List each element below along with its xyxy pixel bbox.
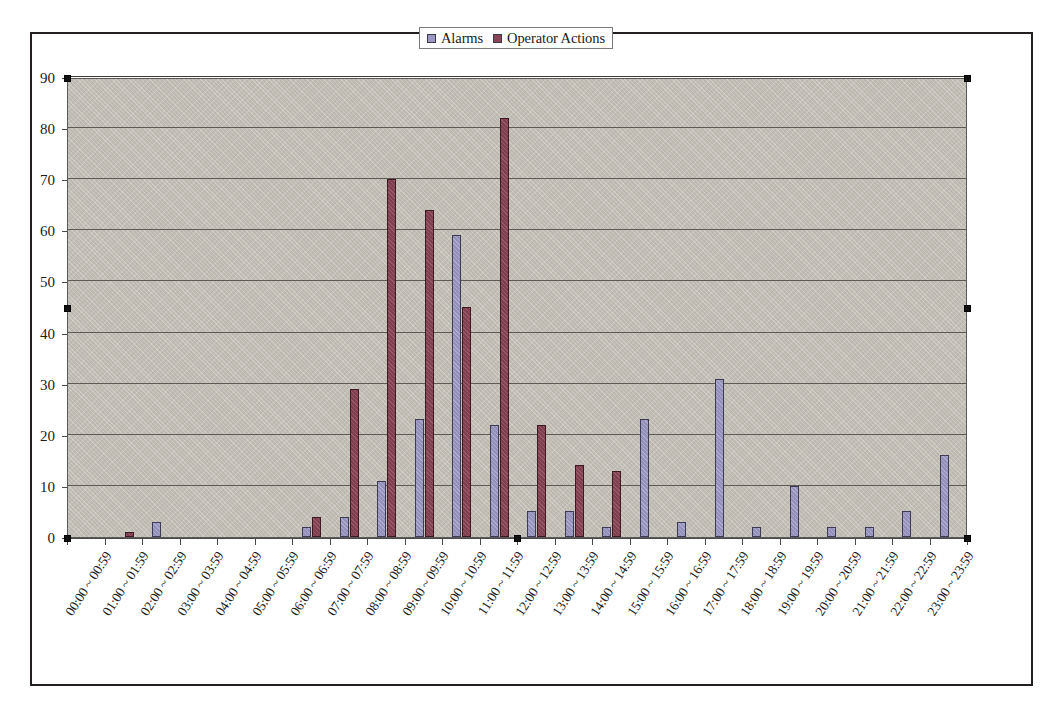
selection-handle-bottom-left[interactable]: [64, 535, 71, 542]
legend-label-operator-actions: Operator Actions: [507, 30, 605, 47]
bar-alarms[interactable]: [940, 455, 949, 537]
bar-alarms[interactable]: [902, 511, 911, 537]
bar-operator-actions[interactable]: [387, 179, 396, 537]
x-tick-mark: [142, 538, 143, 545]
bar-group: [706, 79, 744, 537]
bar-group: [931, 79, 969, 537]
bar-group: [893, 79, 931, 537]
bar-operator-actions[interactable]: [537, 425, 546, 537]
x-tick-mark: [555, 538, 556, 545]
x-tick-mark: [855, 538, 856, 545]
bar-alarms[interactable]: [527, 511, 536, 537]
selection-handle-bottom-center[interactable]: [514, 535, 521, 542]
y-tick-label: 30: [0, 376, 55, 393]
selection-handle-top-left[interactable]: [64, 75, 71, 82]
bar-group: [518, 79, 556, 537]
y-tick-label: 60: [0, 223, 55, 240]
x-tick-mark: [930, 538, 931, 545]
bar-alarms[interactable]: [865, 527, 874, 537]
bar-group: [368, 79, 406, 537]
y-tick-label: 80: [0, 121, 55, 138]
x-tick-mark: [255, 538, 256, 545]
bar-group: [68, 79, 106, 537]
bar-group: [818, 79, 856, 537]
x-tick-mark: [442, 538, 443, 545]
bar-alarms[interactable]: [302, 527, 311, 537]
legend-entry-operator-actions[interactable]: Operator Actions: [493, 30, 605, 47]
y-tick-label: 20: [0, 427, 55, 444]
bar-group: [743, 79, 781, 537]
chart-legend[interactable]: Alarms Operator Actions: [419, 27, 613, 49]
x-tick-mark: [630, 538, 631, 545]
bar-alarms[interactable]: [340, 517, 349, 537]
bar-alarms[interactable]: [452, 235, 461, 537]
y-tick-label: 90: [0, 70, 55, 87]
bar-group: [293, 79, 331, 537]
bar-alarms[interactable]: [752, 527, 761, 537]
bar-alarms[interactable]: [565, 511, 574, 537]
bar-alarms[interactable]: [715, 379, 724, 537]
legend-entry-alarms[interactable]: Alarms: [427, 30, 483, 47]
bar-operator-actions[interactable]: [500, 118, 509, 537]
bar-group: [181, 79, 219, 537]
bar-group: [406, 79, 444, 537]
selection-handle-middle-left[interactable]: [64, 305, 71, 312]
bar-operator-actions[interactable]: [612, 471, 621, 537]
bar-operator-actions[interactable]: [350, 389, 359, 537]
bar-alarms[interactable]: [377, 481, 386, 537]
bar-operator-actions[interactable]: [462, 307, 471, 537]
x-tick-mark: [780, 538, 781, 545]
bars-layer: [68, 79, 966, 537]
bar-group: [481, 79, 519, 537]
x-tick-mark: [705, 538, 706, 545]
x-tick-mark: [217, 538, 218, 545]
bar-alarms[interactable]: [677, 522, 686, 537]
selection-handle-top-right[interactable]: [964, 75, 971, 82]
bar-operator-actions[interactable]: [312, 517, 321, 537]
plot-area[interactable]: [67, 78, 967, 538]
bar-operator-actions[interactable]: [125, 532, 134, 537]
y-tick-label: 70: [0, 172, 55, 189]
bar-alarms[interactable]: [790, 486, 799, 537]
bar-alarms[interactable]: [640, 419, 649, 537]
bar-group: [668, 79, 706, 537]
bar-group: [631, 79, 669, 537]
bar-group: [593, 79, 631, 537]
x-tick-mark: [480, 538, 481, 545]
bar-alarms[interactable]: [490, 425, 499, 537]
y-tick-label: 0: [0, 530, 55, 547]
legend-swatch-alarms: [427, 34, 436, 43]
bar-alarms[interactable]: [152, 522, 161, 537]
y-tick-label: 50: [0, 274, 55, 291]
selection-handle-bottom-right[interactable]: [964, 535, 971, 542]
bar-group: [856, 79, 894, 537]
selection-handle-middle-right[interactable]: [964, 305, 971, 312]
y-tick-label: 10: [0, 478, 55, 495]
bar-group: [781, 79, 819, 537]
x-tick-mark: [105, 538, 106, 545]
bar-group: [443, 79, 481, 537]
bar-alarms[interactable]: [602, 527, 611, 537]
x-tick-mark: [667, 538, 668, 545]
bar-group: [218, 79, 256, 537]
y-tick-label: 40: [0, 325, 55, 342]
bar-operator-actions[interactable]: [425, 210, 434, 537]
bar-group: [331, 79, 369, 537]
bar-group: [556, 79, 594, 537]
gridline: [68, 76, 966, 77]
bar-alarms[interactable]: [827, 527, 836, 537]
x-tick-mark: [817, 538, 818, 545]
bar-alarms[interactable]: [415, 419, 424, 537]
x-tick-mark: [592, 538, 593, 545]
x-tick-mark: [405, 538, 406, 545]
x-tick-mark: [180, 538, 181, 545]
x-tick-mark: [892, 538, 893, 545]
bar-operator-actions[interactable]: [575, 465, 584, 537]
bar-group: [106, 79, 144, 537]
x-tick-mark: [330, 538, 331, 545]
x-tick-mark: [367, 538, 368, 545]
bar-group: [143, 79, 181, 537]
x-tick-mark: [292, 538, 293, 545]
legend-label-alarms: Alarms: [441, 30, 483, 47]
legend-swatch-operator-actions: [493, 34, 502, 43]
